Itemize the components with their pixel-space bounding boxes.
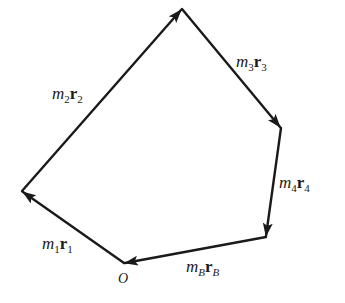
diagram-svg: m1r1 m2r2 m3r3 m4r4 mBrB O [0,0,345,303]
vector-m1r1-arrow [23,192,124,263]
label-m4r4: m4r4 [279,173,310,194]
vector-polygon-diagram: m1r1 m2r2 m3r3 m4r4 mBrB O [0,0,345,303]
label-m1r1: m1r1 [42,234,73,255]
vector-m2r2-arrow [22,10,181,191]
label-m3r3: m3r3 [236,52,267,73]
label-m2r2: m2r2 [52,84,83,105]
label-mBrB: mBrB [186,257,220,278]
origin-label: O [118,271,128,286]
